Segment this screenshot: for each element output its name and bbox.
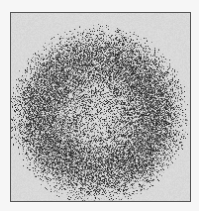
- speckle-image-frame: [10, 12, 191, 202]
- speckle-pattern-image: [11, 13, 190, 201]
